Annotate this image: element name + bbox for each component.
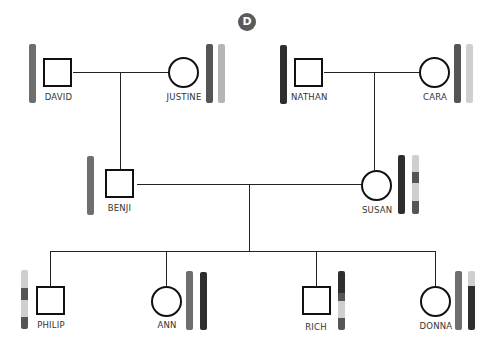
- chromosome-segment: [412, 155, 419, 172]
- chromosome-segment: [29, 44, 36, 103]
- chromosome-segment: [186, 271, 193, 330]
- person-name-label: DAVID: [44, 92, 73, 102]
- male-square-icon: [105, 169, 134, 198]
- chromosome-bar: [338, 271, 345, 330]
- male-square-icon: [302, 286, 331, 315]
- person-name-label: JUSTINE: [166, 92, 202, 102]
- chromosome-bar: [280, 45, 287, 104]
- chromosome-segment: [21, 300, 28, 318]
- chromosome-bar: [468, 271, 475, 330]
- chromosome-segment: [280, 45, 287, 104]
- chromosome-segment: [468, 286, 475, 330]
- mating-line-nathan-cara: [324, 72, 420, 73]
- chromosome-segment: [468, 271, 475, 286]
- chromosome-bar: [21, 270, 28, 329]
- chromosome-bar: [412, 155, 419, 214]
- chromosome-segment: [412, 172, 419, 184]
- chromosome-segment: [21, 317, 28, 329]
- chromosome-bar: [398, 155, 405, 214]
- child-line-rich: [316, 251, 317, 286]
- chromosome-segment: [338, 271, 345, 293]
- female-circle-icon: [151, 286, 182, 317]
- chromosome-segment: [338, 301, 345, 319]
- chromosome-bar: [455, 271, 462, 330]
- child-line-donna: [435, 251, 436, 287]
- chromosome-bar: [206, 44, 213, 103]
- person-name-label: NATHAN: [291, 92, 327, 102]
- chromosome-bar: [218, 44, 225, 103]
- child-line-philip: [50, 251, 51, 286]
- female-circle-icon: [419, 57, 450, 88]
- chromosome-bar: [200, 272, 207, 330]
- person-name-label: DONNA: [418, 321, 454, 331]
- chromosome-bar: [186, 271, 193, 330]
- chromosome-bar: [454, 44, 461, 103]
- male-square-icon: [36, 286, 65, 315]
- child-line-ann: [166, 251, 167, 287]
- pedigree-diagram: D DAVID JUSTINE NATHAN CARA BEN: [0, 0, 503, 356]
- male-square-icon: [43, 58, 72, 87]
- sibship-descent-line: [249, 184, 250, 251]
- chromosome-bar: [466, 44, 473, 103]
- chromosome-segment: [338, 318, 345, 330]
- person-name-label: BENJI: [104, 203, 135, 213]
- chromosome-segment: [338, 293, 345, 300]
- chromosome-segment: [218, 44, 225, 103]
- descent-line-susan: [374, 72, 375, 170]
- female-circle-icon: [168, 57, 199, 88]
- person-name-label: SUSAN: [362, 205, 392, 215]
- descent-line-benji: [120, 72, 121, 169]
- chromosome-segment: [412, 183, 419, 201]
- chromosome-bar: [29, 44, 36, 103]
- chromosome-segment: [398, 155, 405, 214]
- female-circle-icon: [361, 170, 392, 201]
- chromosome-segment: [454, 44, 461, 103]
- person-name-label: CARA: [420, 92, 450, 102]
- chromosome-segment: [87, 156, 94, 215]
- chromosome-segment: [21, 270, 28, 288]
- chromosome-segment: [206, 44, 213, 103]
- chromosome-segment: [412, 201, 419, 214]
- chromosome-segment: [466, 44, 473, 103]
- chromosome-segment: [200, 272, 207, 330]
- person-name-label: ANN: [152, 320, 182, 330]
- chromosome-segment: [21, 288, 28, 300]
- panel-label-badge: D: [238, 13, 256, 31]
- person-name-label: RICH: [302, 322, 330, 332]
- chromosome-segment: [455, 271, 462, 330]
- chromosome-bar: [87, 156, 94, 215]
- female-circle-icon: [420, 286, 451, 317]
- person-name-label: PHILIP: [34, 320, 68, 330]
- sibship-line: [50, 251, 436, 252]
- male-square-icon: [294, 58, 323, 87]
